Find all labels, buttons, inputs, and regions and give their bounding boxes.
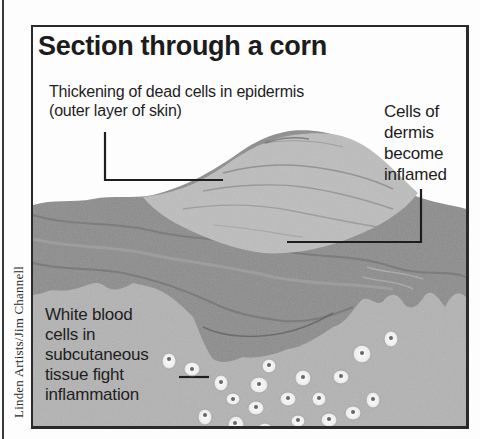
epidermis-label-line: (outer layer of skin): [49, 101, 304, 120]
white-blood-cell: [291, 415, 305, 426]
white-blood-cell: [345, 406, 361, 420]
white-blood-cell: [384, 331, 398, 347]
white-blood-cell: [280, 392, 296, 406]
diagram-title: Section through a corn: [38, 31, 327, 62]
white-blood-cell: [248, 401, 264, 415]
white-blood-cell: [321, 413, 337, 426]
wbc-label-line: cells in: [45, 325, 148, 345]
illustration-credit: Linden Artists/Jim Channell: [11, 266, 27, 418]
dermis-label-line: Cells of: [384, 101, 447, 122]
white-blood-cell: [333, 370, 349, 384]
dermis-label-line: inflamed: [384, 164, 447, 185]
white-blood-cell: [250, 377, 268, 393]
white-blood-cell: [162, 353, 176, 369]
dermis-label: Cells of dermis become inflamed: [384, 101, 447, 185]
white-blood-cell: [226, 393, 240, 405]
wbc-label-line: subcutaneous: [45, 345, 148, 365]
white-blood-cell: [366, 392, 380, 408]
wbc-label-line: tissue fight: [45, 365, 148, 385]
white-blood-cell: [353, 345, 371, 363]
white-blood-cells-label: White blood cells in subcutaneous tissue…: [45, 305, 148, 405]
page-margin-rule: [2, 0, 4, 439]
epidermis-label-line: Thickening of dead cells in epidermis: [49, 82, 304, 101]
white-blood-cell: [312, 392, 326, 406]
white-blood-cell: [198, 409, 212, 425]
white-blood-cell: [262, 359, 276, 373]
diagram-frame: Section through a corn Thickening of dea…: [31, 25, 469, 429]
wbc-label-line: inflammation: [45, 385, 148, 405]
wbc-label-line: White blood: [45, 305, 148, 325]
epidermis-label: Thickening of dead cells in epidermis (o…: [49, 82, 304, 120]
dermis-label-line: dermis: [384, 122, 447, 143]
white-blood-cell: [214, 375, 228, 391]
epidermis-leader-line: [105, 132, 223, 180]
white-blood-cell: [184, 362, 200, 376]
white-blood-cell: [295, 370, 311, 386]
dermis-label-line: become: [384, 143, 447, 164]
